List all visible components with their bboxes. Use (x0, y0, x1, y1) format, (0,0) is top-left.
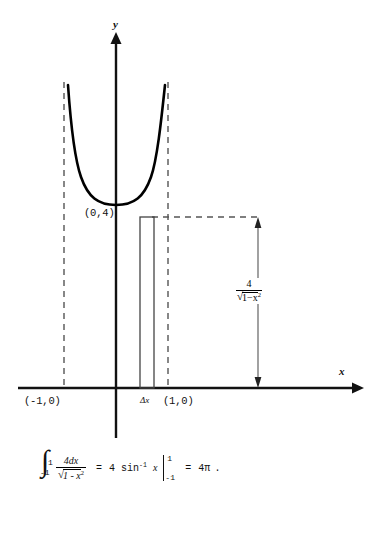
evaluation-lower-limit: -1 (165, 473, 175, 482)
y-axis-label: y (113, 19, 118, 30)
antiderivative-text: 4 sin (109, 463, 139, 474)
x-axis-label: x (339, 366, 345, 377)
evaluation-upper-limit: 1 (167, 454, 172, 463)
integrand-fraction: 4dx 1 - x2 (56, 455, 86, 481)
integral-lower-limit: -1 (40, 460, 50, 486)
evaluation-bar-line (163, 455, 164, 481)
height-callout-numerator: 4 (236, 279, 262, 290)
height-callout-fraction: 4 1−x2 (236, 279, 262, 303)
equation-period: . (214, 463, 220, 474)
antiderivative-exponent: -1 (139, 462, 147, 469)
evaluation-bar: 1 -1 (163, 455, 176, 481)
integrand-denominator: 1 - x2 (56, 467, 86, 482)
height-callout-exponent: 2 (258, 290, 261, 297)
equals-sign-2: = (185, 463, 191, 474)
integrand-exponent: 2 (81, 468, 84, 475)
equals-sign-1: = (96, 463, 102, 474)
antiderivative-expression: 4 sin-1 x (109, 462, 157, 474)
integral-equation: ∫ 1 -1 4dx 1 - x2 = 4 sin-1 x 1 -1 = 4π … (40, 452, 220, 484)
height-callout: 4 1−x2 (234, 278, 264, 304)
equation-result: 4π (198, 463, 210, 474)
integrand-numerator: 4dx (56, 455, 86, 467)
right-intercept-label: (1,0) (163, 396, 194, 407)
integral-symbol: ∫ 1 -1 (40, 452, 53, 484)
height-callout-denominator: 1−x2 (236, 290, 262, 304)
sqrt-icon: 1−x2 (237, 292, 261, 304)
left-intercept-label: (-1,0) (24, 396, 61, 407)
antiderivative-variable: x (153, 462, 157, 473)
strip-width-label: Δx (140, 396, 149, 405)
vertex-point-label: (0,4) (84, 208, 115, 219)
integrand-radicand: 1 - x (63, 469, 81, 482)
sqrt-icon: 1 - x2 (58, 469, 84, 482)
height-callout-radicand: 1−x (242, 292, 258, 304)
